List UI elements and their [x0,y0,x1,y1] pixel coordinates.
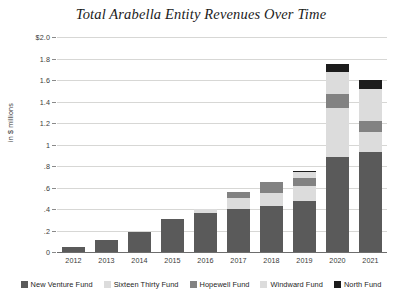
bar-segment[interactable] [359,152,382,252]
legend-swatch-icon [104,281,111,288]
legend-swatch-icon [21,281,28,288]
y-axis-tick-label: 1.6 [10,76,50,85]
bar-segment[interactable] [293,186,316,201]
bar-segment[interactable] [194,209,217,213]
y-axis-tick-mark [52,145,56,146]
y-axis-tick-label: 1.2 [10,119,50,128]
bar-segment[interactable] [227,198,250,209]
y-axis-tick-mark [52,102,56,103]
legend-label: Sixteen Thirty Fund [114,280,179,289]
bar-segment[interactable] [326,108,349,157]
legend-label: North Fund [344,280,381,289]
legend-item[interactable]: New Venture Fund [21,280,93,289]
bar-2018[interactable] [260,182,283,252]
bar-segment[interactable] [359,80,382,89]
bar-segment[interactable] [260,193,283,206]
bar-2021[interactable] [359,80,382,252]
y-axis-tick-mark [52,188,56,189]
x-axis-tick-label: 2021 [351,256,391,265]
y-axis-tick-label: 1.8 [10,54,50,63]
y-axis-tick-mark [52,59,56,60]
bar-segment[interactable] [359,132,382,152]
bar-segment[interactable] [128,232,151,252]
bar-segment[interactable] [227,192,250,198]
x-axis-line [57,252,387,253]
bar-segment[interactable] [293,201,316,252]
y-axis-tick-mark [52,231,56,232]
legend-item[interactable]: Hopewell Fund [190,280,250,289]
legend-label: Windward Fund [270,280,322,289]
bar-segment[interactable] [326,157,349,252]
y-axis-tick-mark [52,37,56,38]
bar-segment[interactable] [260,182,283,193]
bar-segment[interactable] [326,64,349,73]
y-axis-title: in $ millions [6,88,15,158]
bar-segment[interactable] [194,213,217,252]
legend-label: New Venture Fund [31,280,93,289]
y-axis-tick-label: .8 [10,162,50,171]
y-axis-tick-label: .6 [10,183,50,192]
gridline [57,59,387,60]
chart-legend: New Venture FundSixteen Thirty FundHopew… [0,280,402,289]
y-axis-tick-mark [52,252,56,253]
y-axis-tick-label: .2 [10,226,50,235]
bar-segment[interactable] [260,206,283,252]
bar-segment[interactable] [95,240,118,252]
gridline [57,37,387,38]
bar-segment[interactable] [359,89,382,121]
chart-container: Total Arabella Entity Revenues Over Time… [0,0,402,305]
bar-2017[interactable] [227,192,250,252]
chart-title: Total Arabella Entity Revenues Over Time [0,6,402,23]
bar-2019[interactable] [293,171,316,252]
legend-label: Hopewell Fund [200,280,250,289]
bar-2016[interactable] [194,209,217,252]
y-axis-tick-label: 1 [10,140,50,149]
legend-item[interactable]: Sixteen Thirty Fund [104,280,179,289]
legend-item[interactable]: Windward Fund [260,280,322,289]
y-axis-tick-label: $2.0 [10,33,50,42]
y-axis-tick-mark [52,166,56,167]
legend-swatch-icon [334,281,341,288]
y-axis-tick-label: .4 [10,205,50,214]
bar-segment[interactable] [326,72,349,94]
plot-area [57,37,387,252]
legend-swatch-icon [260,281,267,288]
bar-2015[interactable] [161,219,184,252]
bar-segment[interactable] [359,121,382,132]
y-axis-tick-mark [52,80,56,81]
y-axis-tick-label: 1.4 [10,97,50,106]
bar-segment[interactable] [293,178,316,187]
bar-segment[interactable] [293,172,316,177]
y-axis-tick-label: 0 [10,248,50,257]
legend-item[interactable]: North Fund [334,280,381,289]
y-axis-tick-mark [52,209,56,210]
bar-segment[interactable] [326,94,349,108]
bar-2013[interactable] [95,240,118,252]
bar-segment[interactable] [161,219,184,252]
legend-swatch-icon [190,281,197,288]
bar-segment[interactable] [227,209,250,252]
bar-2020[interactable] [326,64,349,252]
y-axis-tick-mark [52,123,56,124]
bar-segment[interactable] [293,171,316,172]
bar-2014[interactable] [128,232,151,252]
